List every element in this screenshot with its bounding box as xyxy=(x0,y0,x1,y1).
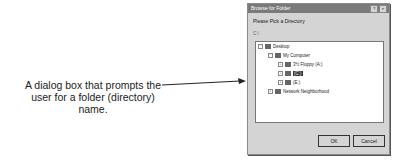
folder-tree[interactable]: − Desktop − My Computer + 3½ Floppy (A:)… xyxy=(255,41,384,123)
collapse-icon[interactable]: − xyxy=(258,44,263,49)
tree-node-desktop[interactable]: − Desktop xyxy=(258,44,290,49)
help-button[interactable]: ? xyxy=(370,5,378,13)
tree-node-drive-e[interactable]: + (E:) xyxy=(278,80,300,85)
dialog-prompt: Please Pick a Directory xyxy=(253,18,305,24)
expand-icon[interactable]: + xyxy=(278,71,283,76)
expand-icon[interactable]: + xyxy=(268,89,273,94)
expand-icon[interactable]: + xyxy=(278,80,283,85)
tree-node-network[interactable]: + Network Neighborhood xyxy=(268,89,329,94)
browse-folder-dialog: Browse for Folder ? × Please Pick a Dire… xyxy=(247,3,390,155)
floppy-drive-icon xyxy=(285,62,291,67)
collapse-icon[interactable]: − xyxy=(268,53,273,58)
tree-node-my-computer[interactable]: − My Computer xyxy=(268,53,310,58)
dialog-titlebar: Browse for Folder ? × xyxy=(248,4,389,13)
tree-node-floppy[interactable]: + 3½ Floppy (A:) xyxy=(278,62,323,67)
desktop-icon xyxy=(265,44,271,49)
annotation-caption: A dialog box that prompts the user for a… xyxy=(18,79,168,115)
hard-drive-icon xyxy=(285,80,291,85)
current-path: C:\ xyxy=(253,31,259,36)
close-button[interactable]: × xyxy=(379,5,387,13)
expand-icon[interactable]: + xyxy=(278,62,283,67)
cancel-button[interactable]: Cancel xyxy=(353,135,385,147)
annotation-arrow xyxy=(160,78,250,88)
hard-drive-icon xyxy=(285,71,291,76)
tree-node-drive-c[interactable]: + (C:) xyxy=(278,71,303,76)
ok-button[interactable]: OK xyxy=(318,135,350,147)
dialog-title: Browse for Folder xyxy=(251,5,290,11)
network-icon xyxy=(275,89,281,94)
computer-icon xyxy=(275,53,281,58)
